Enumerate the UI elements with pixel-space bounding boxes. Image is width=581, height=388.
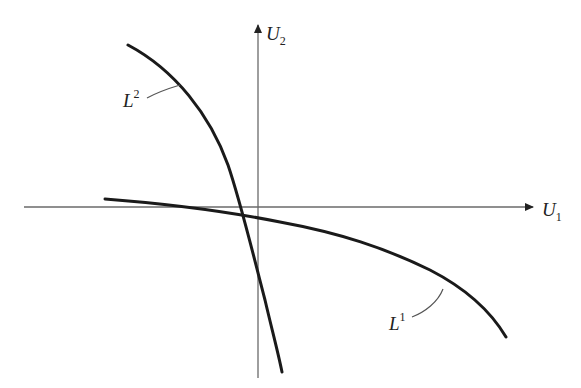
diagram-canvas: U2 U1 L2 L1: [0, 0, 581, 388]
u1-axis-label: U1: [542, 199, 562, 224]
l1-leader: [412, 289, 443, 317]
curve-l1: [105, 199, 506, 337]
l2-label: L2: [122, 87, 140, 111]
l1-label: L1: [388, 310, 406, 334]
l2-leader: [147, 85, 180, 98]
u2-axis-label: U2: [266, 23, 286, 48]
